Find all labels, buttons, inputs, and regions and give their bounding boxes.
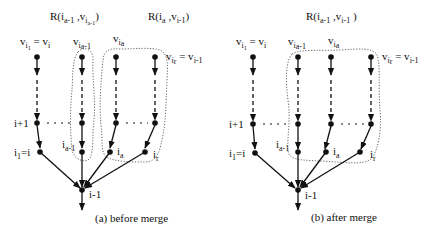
panel-after-merge: R(ia-1 ,vi-1 ) vi1 = vi via-1 via vir = … — [229, 10, 419, 224]
label-ir: ir — [153, 148, 159, 163]
node-v-ia-minus-1 — [295, 54, 301, 60]
caption-before-merge: (a) before merge — [95, 212, 168, 225]
label-ia-minus-1: ia-1 — [276, 138, 289, 153]
node-v-ia — [113, 54, 119, 60]
edge — [361, 126, 371, 149]
label-v-ir: vir = vi-1 — [382, 50, 419, 66]
label-v-ia-minus-1: via-1 — [73, 35, 91, 51]
node-root-i-minus-1 — [79, 187, 85, 193]
label-v-ia: via — [113, 32, 125, 48]
label-ia-minus-1: ia-1 — [62, 138, 75, 153]
label-root: i-1 — [89, 188, 101, 200]
edge — [110, 125, 116, 148]
label-v-i1: vi1 = vi — [20, 35, 51, 51]
node-v-ir — [368, 54, 374, 60]
node-v-i1 — [34, 54, 40, 60]
edge — [325, 126, 331, 149]
label-ia: ia — [333, 145, 340, 160]
edge — [145, 125, 155, 148]
node-i-plus-1 — [250, 121, 256, 127]
edge — [300, 152, 326, 187]
node-v-i1 — [250, 54, 256, 60]
node-v-ia-minus-1 — [79, 54, 85, 60]
node-i-plus-1 — [113, 120, 119, 126]
node-i-plus-1 — [152, 120, 158, 126]
edge — [37, 125, 40, 148]
label-v-ir: vir = vi-1 — [166, 50, 203, 66]
node-i-plus-1 — [295, 121, 301, 127]
region-title-a-minus-1: R(ia-1 ,via-1) — [50, 10, 99, 26]
label-ir: ir — [370, 148, 376, 163]
node-v-ia — [328, 54, 334, 60]
node-root-i-minus-1 — [295, 187, 301, 193]
node-i-plus-1 — [34, 120, 40, 126]
label-i-plus-1: i+1 — [14, 117, 29, 129]
edge — [85, 152, 145, 188]
node-i-plus-1 — [368, 121, 374, 127]
label-i-plus-1: i+1 — [229, 118, 244, 130]
node-i-plus-1 — [79, 120, 85, 126]
edge — [40, 152, 80, 188]
edge — [84, 152, 110, 187]
region-title-a: R(ia ,vi-1) — [148, 10, 190, 25]
panel-before-merge: R(ia-1 ,via-1) R(ia ,vi-1) vi1 = vi via-… — [14, 10, 203, 225]
label-root: i-1 — [305, 189, 317, 201]
label-v-i1: vi1 = vi — [236, 35, 267, 51]
edge — [255, 153, 295, 188]
edge — [253, 126, 255, 149]
label-i1: i1=i — [14, 146, 30, 161]
region-title-merged: R(ia-1 ,vi-1 ) — [306, 10, 357, 25]
node-i-plus-1 — [328, 121, 334, 127]
label-v-ia-minus-1: via-1 — [288, 35, 306, 51]
merge-diagram: R(ia-1 ,via-1) R(ia ,vi-1) vi1 = vi via-… — [0, 0, 435, 236]
label-v-ia: via — [328, 34, 340, 50]
label-i1: i1=i — [229, 147, 245, 162]
edge — [301, 152, 360, 188]
node-v-ir — [152, 54, 158, 60]
caption-after-merge: (b) after merge — [311, 211, 377, 224]
label-ia: ia — [117, 145, 124, 160]
